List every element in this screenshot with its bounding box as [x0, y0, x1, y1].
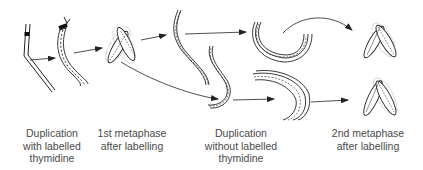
- label-line: thymidine: [204, 152, 278, 165]
- arrow-4: [121, 62, 218, 99]
- label-line: after labelling: [330, 140, 406, 153]
- label-line: Duplication: [22, 127, 82, 140]
- duplicated-pair-lower-icon: [253, 70, 310, 120]
- arrow-5: [185, 32, 246, 34]
- label-line: thymidine: [22, 152, 82, 165]
- arrow-8: [311, 100, 348, 102]
- label-line: with labelled: [22, 140, 82, 153]
- stage-label-duplication-without-label: Duplication without labelled thymidine: [204, 127, 278, 165]
- arrow-3: [141, 35, 166, 40]
- label-line: Duplication: [204, 127, 278, 140]
- separated-chromatid-upper-icon: [174, 10, 209, 85]
- second-metaphase-chromosome-lower-icon: [360, 75, 401, 118]
- label-line: 1st metaphase: [96, 127, 168, 140]
- arrow-1: [30, 58, 55, 60]
- label-line: after labelling: [96, 140, 168, 153]
- arrow-2: [74, 48, 102, 53]
- second-metaphase-chromosome-upper-icon: [361, 20, 401, 61]
- separated-chromatid-lower-icon: [208, 46, 230, 108]
- first-metaphase-chromosome-icon: [101, 23, 140, 66]
- arrow-7: [283, 18, 352, 33]
- stage-label-duplication-with-label: Duplication with labelled thymidine: [22, 127, 82, 165]
- label-line: without labelled: [204, 140, 278, 153]
- stage-label-second-metaphase: 2nd metaphase after labelling: [330, 127, 406, 152]
- label-line: 2nd metaphase: [330, 127, 406, 140]
- stage-label-first-metaphase: 1st metaphase after labelling: [96, 127, 168, 152]
- arrow-6: [233, 99, 274, 100]
- duplicated-pair-upper-icon: [253, 22, 312, 62]
